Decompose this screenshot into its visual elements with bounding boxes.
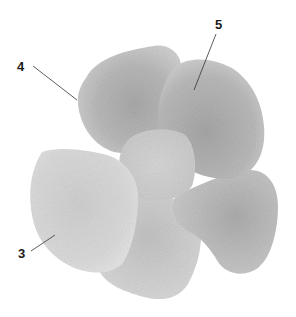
petals xyxy=(30,46,278,299)
leader-line-4 xyxy=(33,66,77,100)
label-5: 5 xyxy=(215,17,222,32)
label-3: 3 xyxy=(18,246,25,261)
petal-3 xyxy=(30,149,138,272)
label-4: 4 xyxy=(17,59,25,74)
flower-petals-illustration: 4 5 3 xyxy=(0,0,296,317)
